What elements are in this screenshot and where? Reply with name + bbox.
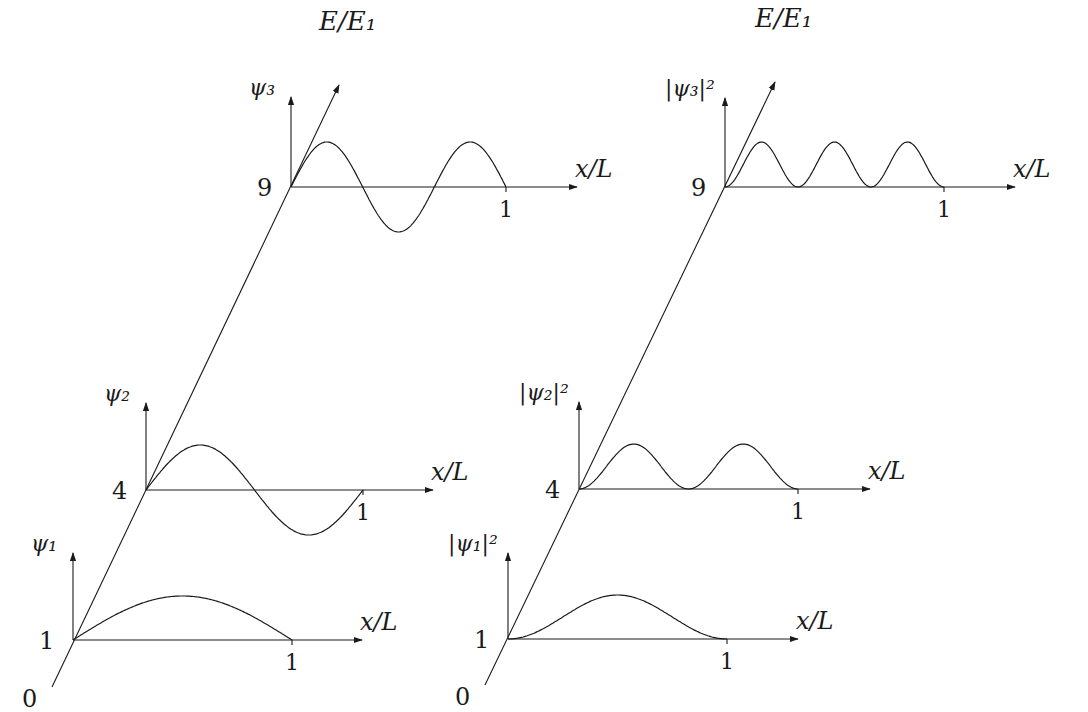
energy-axis-label: E/E₁	[318, 6, 376, 36]
x-tick-label: 1	[791, 499, 805, 524]
energy-level-label: 1	[39, 627, 54, 655]
x-tick-label: 1	[937, 197, 951, 222]
level-n2: 41x/Lψ₂	[104, 381, 469, 535]
x-tick-label: 1	[356, 500, 370, 525]
panel-wavefunctions: E/E₁011x/Lψ₁41x/Lψ₂91x/Lψ₃	[22, 6, 613, 712]
x-tick-label: 1	[499, 197, 513, 222]
function-label: ψ₃	[249, 75, 275, 100]
energy-level-label: 9	[257, 174, 272, 202]
level-n1: 11x/L|ψ₁|²	[448, 531, 834, 674]
x-axis-label: x/L	[796, 607, 834, 635]
function-label: |ψ₃|²	[665, 76, 715, 102]
x-axis-label: x/L	[360, 608, 398, 636]
energy-axis-label: E/E₁	[754, 3, 812, 33]
figure-canvas: E/E₁011x/Lψ₁41x/Lψ₂91x/Lψ₃E/E₁011x/L|ψ₁|…	[0, 0, 1088, 712]
probability-density-curve	[579, 444, 798, 489]
zero-label: 0	[22, 685, 37, 712]
level-n3: 91x/Lψ₃	[249, 75, 613, 232]
wavefunction-curve	[73, 596, 292, 640]
level-n2: 41x/L|ψ₂|²	[519, 380, 906, 524]
panel-probability-densities: E/E₁011x/L|ψ₁|²41x/L|ψ₂|²91x/L|ψ₃|²	[448, 3, 1051, 711]
probability-density-curve	[508, 595, 727, 639]
function-label: |ψ₂|²	[519, 380, 569, 406]
probability-density-curve	[725, 142, 944, 187]
energy-level-label: 4	[112, 477, 127, 505]
zero-label: 0	[455, 683, 470, 711]
level-n3: 91x/L|ψ₃|²	[665, 76, 1051, 222]
energy-level-label: 4	[545, 476, 560, 504]
energy-level-label: 1	[474, 626, 489, 654]
x-axis-label: x/L	[1013, 155, 1051, 183]
level-n1: 11x/Lψ₁	[31, 531, 398, 675]
x-axis-label: x/L	[868, 457, 906, 485]
x-tick-label: 1	[285, 650, 299, 675]
x-axis-label: x/L	[431, 458, 469, 486]
energy-level-label: 9	[691, 174, 706, 202]
x-tick-label: 1	[720, 649, 734, 674]
function-label: ψ₂	[104, 381, 130, 406]
energy-level-diagram: E/E₁011x/Lψ₁41x/Lψ₂91x/Lψ₃E/E₁011x/L|ψ₁|…	[0, 0, 1088, 712]
function-label: |ψ₁|²	[448, 531, 498, 557]
function-label: ψ₁	[31, 531, 57, 556]
x-axis-label: x/L	[575, 155, 613, 183]
